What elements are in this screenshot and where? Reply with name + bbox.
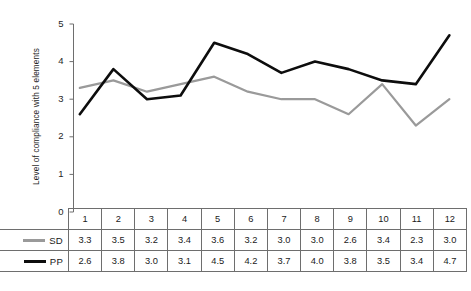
table-cell: 2.6 — [334, 230, 367, 251]
table-cell: 3.3 — [69, 230, 102, 251]
table-cell: 4.7 — [433, 251, 466, 272]
data-series-group — [80, 35, 450, 125]
y-axis-tick-label: 4 — [50, 55, 64, 66]
table-column-header: 12 — [433, 209, 466, 230]
table-cell: 3.8 — [102, 251, 135, 272]
table-column-header: 6 — [234, 209, 267, 230]
table-cell: 3.7 — [267, 251, 300, 272]
plot-canvas — [0, 0, 471, 220]
table-cell: 3.0 — [267, 230, 300, 251]
table-cell: 3.2 — [234, 230, 267, 251]
table-cell: 3.8 — [334, 251, 367, 272]
table-cell: 3.5 — [367, 251, 400, 272]
series-line-sd — [80, 77, 450, 126]
data-table: 123456789101112 SD3.33.53.23.43.63.23.03… — [0, 208, 467, 272]
y-axis-tick-label: 3 — [50, 93, 64, 104]
table-row: PP2.63.83.03.14.54.23.74.03.83.53.44.7 — [0, 251, 467, 272]
table-row: SD3.33.53.23.43.63.23.03.02.63.42.33.0 — [0, 230, 467, 251]
line-chart-figure: Level of compliance with 5 elements 0123… — [0, 0, 471, 291]
table-header: 123456789101112 — [0, 209, 467, 230]
series-line-pp — [80, 35, 450, 114]
legend-cell-pp: PP — [0, 251, 69, 272]
table-cell: 3.0 — [301, 230, 334, 251]
table-column-header: 2 — [102, 209, 135, 230]
table-cell: 3.0 — [433, 230, 466, 251]
header-corner-cell — [0, 209, 69, 230]
table-cell: 2.3 — [400, 230, 433, 251]
table-cell: 3.6 — [201, 230, 234, 251]
table-column-header: 5 — [201, 209, 234, 230]
table-cell: 4.2 — [234, 251, 267, 272]
table-cell: 3.5 — [102, 230, 135, 251]
table-cell: 3.0 — [135, 251, 168, 272]
table-body: SD3.33.53.23.43.63.23.03.02.63.42.33.0PP… — [0, 230, 467, 272]
table-cell: 2.6 — [69, 251, 102, 272]
legend-swatch-sd-icon — [23, 239, 45, 242]
table-column-header: 8 — [301, 209, 334, 230]
table-column-header: 10 — [367, 209, 400, 230]
table-column-header: 4 — [168, 209, 201, 230]
y-axis-ticks — [70, 24, 74, 212]
plot-area: 012345 — [0, 0, 471, 220]
y-axis-tick-label: 1 — [50, 168, 64, 179]
table-header-row: 123456789101112 — [0, 209, 467, 230]
table-cell: 4.5 — [201, 251, 234, 272]
table-column-header: 11 — [400, 209, 433, 230]
table-cell: 3.1 — [168, 251, 201, 272]
table-cell: 3.4 — [367, 230, 400, 251]
table-cell: 3.2 — [135, 230, 168, 251]
y-axis-tick-label: 2 — [50, 130, 64, 141]
table-column-header: 1 — [69, 209, 102, 230]
table-column-header: 9 — [334, 209, 367, 230]
y-axis-tick-label: 5 — [50, 18, 64, 29]
legend-swatch-pp-icon — [24, 260, 46, 263]
table-cell: 3.4 — [400, 251, 433, 272]
table-column-header: 7 — [267, 209, 300, 230]
table-cell: 4.0 — [301, 251, 334, 272]
legend-label-sd: SD — [49, 235, 63, 246]
legend-cell-sd: SD — [0, 230, 69, 251]
table-cell: 3.4 — [168, 230, 201, 251]
table-column-header: 3 — [135, 209, 168, 230]
legend-label-pp: PP — [50, 256, 63, 267]
y-axis — [70, 24, 74, 212]
